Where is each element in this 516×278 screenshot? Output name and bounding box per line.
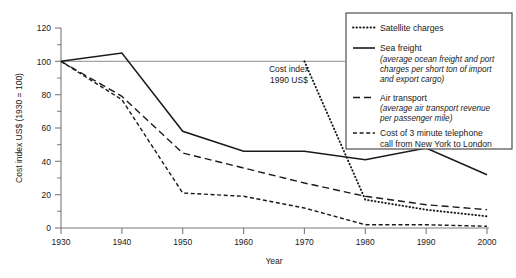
x-tick-label: 2000 [478, 237, 497, 247]
x-tick-label: 1950 [173, 237, 192, 247]
y-tick-label: 80 [42, 90, 52, 100]
legend: Satellite charges Sea freight (average o… [346, 13, 512, 149]
legend-item-sub: (average air transport revenue [380, 104, 491, 113]
legend-item-sub: and export cargo) [380, 75, 444, 84]
x-tick-label: 1940 [112, 237, 131, 247]
x-tick-label: 1970 [295, 237, 314, 247]
legend-item-sub: per passenger mile) [379, 114, 453, 123]
x-tick-label: 1960 [234, 237, 253, 247]
legend-item-label: Satellite charges [380, 23, 444, 33]
y-tick-label: 120 [37, 23, 51, 33]
y-axis-title: Cost index US$ (1930 = 100) [14, 73, 24, 183]
x-axis-title: Year [265, 256, 282, 266]
y-tick-label: 100 [37, 57, 51, 67]
legend-item-sub: charges per short ton of import [380, 65, 492, 74]
x-tick-label: 1980 [356, 237, 375, 247]
legend-item-label: Air transport [380, 93, 427, 103]
legend-item-label-2: call from New York to London [380, 139, 492, 149]
chart-svg: 120 100 80 60 40 20 0 1930 1940 1950 196… [0, 0, 516, 278]
y-tick-label: 20 [42, 190, 52, 200]
annotation-line1: Cost index [269, 64, 310, 74]
x-tick-label: 1930 [52, 237, 71, 247]
y-tick-label: 0 [46, 223, 51, 233]
annotation-line2: 1990 US$ [270, 75, 308, 85]
x-tick-label: 1990 [417, 237, 436, 247]
legend-item-label: Sea freight [380, 43, 422, 53]
y-tick-label: 40 [42, 157, 52, 167]
legend-item-sub: (average ocean freight and port [380, 55, 495, 64]
chart-figure: 120 100 80 60 40 20 0 1930 1940 1950 196… [0, 0, 516, 278]
legend-item-label: Cost of 3 minute telephone [380, 128, 483, 138]
y-tick-label: 60 [42, 123, 52, 133]
